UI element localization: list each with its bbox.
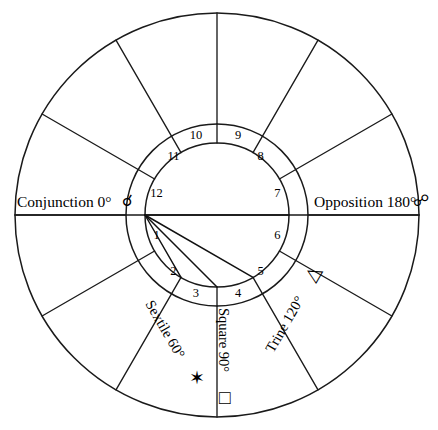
sextile-label-group: Sextile 60° ✶: [142, 295, 209, 390]
house-number-12: 12: [150, 186, 163, 200]
conjunction-label-group: Conjunction 0° ☌: [17, 192, 133, 210]
square-glyph-icon: □: [215, 392, 236, 404]
house-number-11: 11: [167, 149, 179, 163]
house-number-4: 4: [235, 286, 242, 300]
house-number-7: 7: [274, 186, 280, 200]
house-number-1: 1: [153, 228, 159, 242]
house-number-3: 3: [193, 286, 199, 300]
ring-divider-300: [253, 277, 263, 293]
sextile-glyph-icon: ✶: [183, 366, 209, 390]
ring-divider-150: [138, 170, 154, 180]
cusp-spoke-60: [263, 40, 319, 136]
conjunction-glyph-icon: ☌: [122, 192, 133, 209]
cusp-spoke-210: [42, 261, 138, 317]
sextile-label: Sextile 60°: [142, 297, 188, 361]
trine-label-group: Trine 120° △: [259, 261, 325, 355]
ring-divider-210: [138, 251, 154, 261]
house-number-6: 6: [274, 228, 280, 242]
aspect-wheel-diagram: 1 2 3 4 5 6 7 8 9 10 11 12 Conjunction 0…: [0, 0, 438, 430]
cusp-spoke-30: [296, 114, 392, 170]
opposition-label: Opposition 180°: [314, 193, 416, 210]
square-label-group: Square 90° □: [215, 308, 236, 404]
ring-divider-30: [279, 170, 295, 180]
house-number-10: 10: [190, 128, 203, 142]
house-number-9: 9: [235, 128, 241, 142]
house-number-2: 2: [170, 264, 176, 278]
conjunction-label: Conjunction 0°: [17, 193, 111, 210]
cusp-spoke-150: [42, 114, 138, 170]
house-number-8: 8: [257, 149, 263, 163]
aspect-wheel-svg: 1 2 3 4 5 6 7 8 9 10 11 12 Conjunction 0…: [0, 0, 438, 430]
square-label: Square 90°: [216, 308, 232, 372]
ring-divider-240: [172, 277, 182, 293]
trine-label: Trine 120°: [262, 293, 307, 355]
aspect-ray-group: [145, 215, 289, 287]
cusp-spoke-120: [116, 40, 172, 136]
house-number-group: 1 2 3 4 5 6 7 8 9 10 11 12: [150, 128, 280, 299]
opposition-label-group: Opposition 180° ☍: [314, 192, 429, 210]
opposition-glyph-icon: ☍: [413, 192, 429, 209]
house-number-5: 5: [257, 264, 263, 278]
ring-divider-330: [279, 251, 295, 261]
